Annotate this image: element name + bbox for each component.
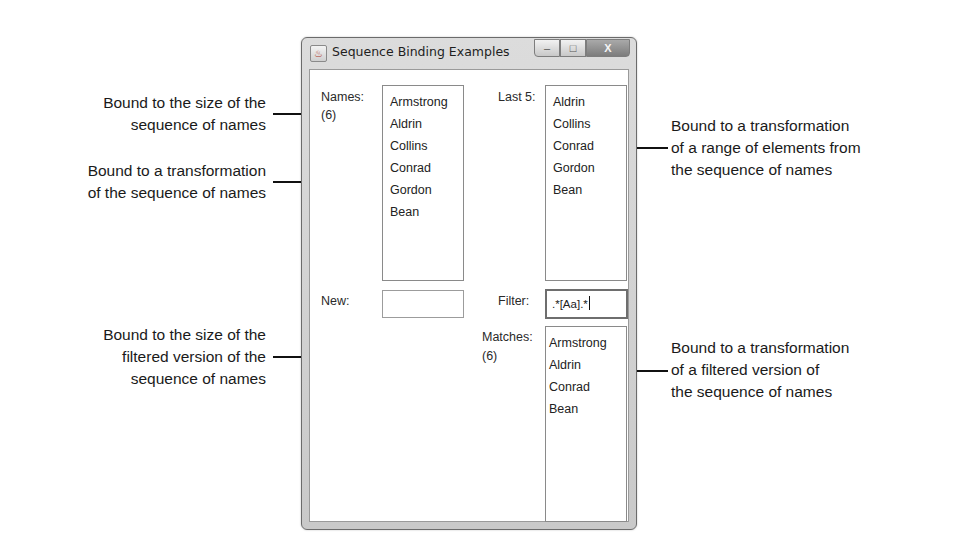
list-item[interactable]: Gordon bbox=[390, 179, 463, 201]
callout-matches-count: Bound to the size of the filtered versio… bbox=[103, 324, 266, 390]
last5-label: Last 5: bbox=[498, 90, 536, 104]
list-item[interactable]: Conrad bbox=[553, 135, 626, 157]
window-controls: – □ X bbox=[534, 39, 630, 58]
filter-value: .*[Aa].* bbox=[552, 298, 588, 310]
callout-names-list: Bound to a transformation of the sequenc… bbox=[88, 160, 266, 204]
filter-input[interactable]: .*[Aa].* bbox=[545, 289, 628, 319]
minimize-button[interactable]: – bbox=[534, 39, 560, 57]
new-name-input[interactable] bbox=[382, 290, 464, 318]
close-icon: X bbox=[604, 42, 611, 54]
names-count: (6) bbox=[321, 108, 336, 122]
text-caret bbox=[589, 296, 590, 310]
callout-line: of the sequence of names bbox=[88, 182, 266, 204]
title-bar[interactable]: ♨ Sequence Binding Examples – □ X bbox=[302, 38, 636, 69]
list-item[interactable]: Gordon bbox=[553, 157, 626, 179]
names-list[interactable]: Armstrong Aldrin Collins Conrad Gordon B… bbox=[382, 85, 464, 281]
callout-line: of a filtered version of bbox=[671, 359, 849, 381]
callout-line: of a range of elements from bbox=[671, 137, 861, 159]
callout-line: the sequence of names bbox=[671, 159, 861, 181]
list-item[interactable]: Conrad bbox=[390, 157, 463, 179]
list-item[interactable]: Bean bbox=[390, 201, 463, 223]
java-cup-icon: ♨ bbox=[310, 45, 327, 62]
callout-matches-list: Bound to a transformation of a filtered … bbox=[671, 337, 849, 403]
app-window: ♨ Sequence Binding Examples – □ X Names:… bbox=[301, 37, 637, 530]
last5-list[interactable]: Aldrin Collins Conrad Gordon Bean bbox=[545, 85, 627, 281]
callout-last5-list: Bound to a transformation of a range of … bbox=[671, 115, 861, 181]
callout-names-count: Bound to the size of the sequence of nam… bbox=[103, 92, 266, 136]
filter-label: Filter: bbox=[498, 294, 529, 308]
callout-line: Bound to a transformation bbox=[671, 115, 861, 137]
close-button[interactable]: X bbox=[586, 39, 630, 57]
list-item[interactable]: Bean bbox=[549, 398, 626, 420]
list-item[interactable]: Aldrin bbox=[390, 113, 463, 135]
callout-line: Bound to a transformation bbox=[671, 337, 849, 359]
list-item[interactable]: Aldrin bbox=[553, 91, 626, 113]
list-item[interactable]: Conrad bbox=[549, 376, 626, 398]
callout-line: Bound to a transformation bbox=[88, 160, 266, 182]
list-item[interactable]: Collins bbox=[553, 113, 626, 135]
new-label: New: bbox=[321, 294, 349, 308]
names-label: Names: bbox=[321, 90, 364, 104]
content-panel: Names: (6) Armstrong Aldrin Collins Conr… bbox=[309, 69, 629, 522]
list-item[interactable]: Collins bbox=[390, 135, 463, 157]
list-item[interactable]: Armstrong bbox=[390, 91, 463, 113]
matches-count: (6) bbox=[482, 349, 497, 363]
maximize-button[interactable]: □ bbox=[560, 39, 586, 57]
callout-line: the sequence of names bbox=[671, 381, 849, 403]
callout-line: sequence of names bbox=[103, 368, 266, 390]
maximize-icon: □ bbox=[570, 42, 577, 54]
matches-list[interactable]: Armstrong Aldrin Conrad Bean bbox=[545, 326, 627, 522]
minimize-icon: – bbox=[544, 42, 550, 54]
callout-line: sequence of names bbox=[103, 114, 266, 136]
callout-line: Bound to the size of the bbox=[103, 92, 266, 114]
window-title: Sequence Binding Examples bbox=[332, 44, 510, 59]
list-item[interactable]: Armstrong bbox=[549, 332, 626, 354]
matches-label: Matches: bbox=[482, 330, 533, 344]
callout-line: Bound to the size of the bbox=[103, 324, 266, 346]
list-item[interactable]: Bean bbox=[553, 179, 626, 201]
list-item[interactable]: Aldrin bbox=[549, 354, 626, 376]
callout-line: filtered version of the bbox=[103, 346, 266, 368]
